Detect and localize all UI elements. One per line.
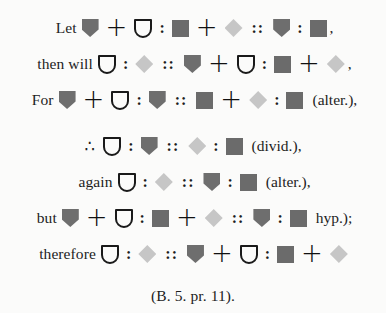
shield-icon [203, 173, 220, 191]
ratio-colon: : [128, 138, 133, 154]
plus-sign: + [176, 204, 198, 230]
ratio-colon: : [123, 56, 128, 72]
ratio-colon: : [126, 246, 131, 262]
proof-line: For+:::+:(alter.), [0, 88, 386, 112]
plus-sign: + [196, 14, 218, 40]
shield-icon [141, 137, 158, 155]
square-icon [226, 138, 243, 155]
proof-annotation: hyp.); [316, 209, 353, 227]
square-icon [240, 174, 257, 191]
diamond-icon [138, 245, 156, 263]
cup-outline-icon [118, 173, 136, 192]
shield-icon [59, 91, 76, 109]
square-icon [274, 56, 291, 73]
diamond-icon [225, 19, 243, 37]
square-icon [277, 246, 294, 263]
proof-text: but [37, 209, 57, 227]
ratio-colon: : [140, 210, 145, 226]
proof-annotation: (divid.), [252, 137, 302, 155]
shield-icon [82, 19, 99, 37]
ratio-colon: : [297, 20, 302, 36]
diamond-icon [330, 245, 348, 263]
shield-icon [273, 19, 290, 37]
proportion-sign: :: [182, 174, 195, 190]
shield-icon [184, 55, 201, 73]
ratio-colon: : [136, 92, 141, 108]
therefore-sign: ∴ [84, 136, 95, 156]
diamond-icon [135, 55, 153, 73]
ratio-colon: : [213, 138, 218, 154]
plus-sign: + [301, 240, 323, 266]
square-icon [196, 92, 213, 109]
proof-line: therefore:::+:+ [0, 242, 386, 266]
square-icon [152, 210, 169, 227]
ratio-colon: : [143, 174, 148, 190]
shield-icon [253, 209, 270, 227]
punctuation: , [348, 55, 352, 73]
diamond-icon [205, 209, 223, 227]
plus-sign: + [298, 50, 320, 76]
cup-outline-icon [98, 55, 116, 74]
cup-outline-icon [111, 91, 129, 110]
proof-text: Let [56, 19, 77, 37]
cup-outline-icon [115, 209, 133, 228]
ratio-colon: : [227, 174, 232, 190]
proportion-sign: :: [167, 138, 180, 154]
proof-line: but+:+:::hyp.); [0, 206, 386, 230]
proportion-sign: :: [175, 92, 188, 108]
proof-line: (B. 5. pr. 11). [0, 284, 386, 308]
cup-outline-icon [237, 55, 255, 74]
proof-annotation: (alter.), [266, 173, 311, 191]
proof-line: Let+:+:::, [0, 16, 386, 40]
square-icon [290, 210, 307, 227]
shield-icon [187, 245, 204, 263]
plus-sign: + [220, 86, 242, 112]
diamond-icon [249, 91, 267, 109]
punctuation: , [330, 19, 334, 37]
ratio-colon: : [274, 92, 279, 108]
cup-outline-icon [134, 19, 152, 38]
plus-sign: + [106, 14, 128, 40]
plus-sign: + [83, 86, 105, 112]
proportion-sign: :: [252, 20, 265, 36]
diamond-icon [188, 137, 206, 155]
cup-outline-icon [103, 137, 121, 156]
proof-text: therefore [39, 245, 96, 263]
proof-text: again [78, 173, 112, 191]
cup-outline-icon [101, 245, 119, 264]
square-icon [172, 20, 189, 37]
ratio-colon: : [277, 210, 282, 226]
square-icon [310, 20, 327, 37]
proof-text: (B. 5. pr. 11). [151, 287, 235, 305]
shield-icon [149, 91, 166, 109]
proof-annotation: (alter.), [312, 91, 357, 109]
diamond-icon [327, 55, 345, 73]
proportion-sign: :: [165, 246, 178, 262]
proportion-sign: :: [232, 210, 245, 226]
proof-text: then will [37, 55, 93, 73]
ratio-colon: : [262, 56, 267, 72]
proof-line: again::::(alter.), [0, 170, 386, 194]
proportion-sign: :: [162, 56, 175, 72]
proof-line: then will:::+:+, [0, 52, 386, 76]
cup-outline-icon [240, 245, 258, 264]
diamond-icon [155, 173, 173, 191]
plus-sign: + [86, 204, 108, 230]
ratio-colon: : [265, 246, 270, 262]
square-icon [286, 92, 303, 109]
proof-page: Let+:+:::,then will:::+:+,For+:::+:(alte… [0, 0, 386, 313]
plus-sign: + [211, 240, 233, 266]
ratio-colon: : [159, 20, 164, 36]
proof-line: ∴::::(divid.), [0, 134, 386, 158]
plus-sign: + [208, 50, 230, 76]
shield-icon [62, 209, 79, 227]
proof-text: For [32, 91, 54, 109]
